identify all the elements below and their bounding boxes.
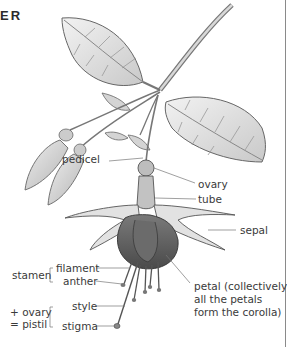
label-pistil-line1: + ovary	[10, 306, 52, 318]
label-pistil-line2: = pistil	[10, 318, 47, 330]
label-petal-line2: all the petals	[194, 293, 262, 305]
pedicel-stalk	[146, 95, 158, 162]
ovary-shape	[138, 160, 154, 176]
leader-petal	[166, 255, 190, 283]
label-sepal: sepal	[240, 224, 268, 236]
label-petal-line1: petal (collectively,	[194, 280, 287, 292]
small-leaf	[105, 132, 128, 140]
label-tube: tube	[198, 193, 222, 205]
upper-leaf	[62, 18, 143, 86]
lower-right-leaf	[165, 97, 265, 162]
label-stamen: stamen	[12, 269, 51, 281]
label-style: style	[72, 300, 97, 312]
leader-anther	[96, 281, 122, 284]
small-leaf	[102, 93, 130, 110]
leader-tube	[155, 198, 196, 199]
stamen-filament	[124, 262, 132, 284]
stigma-shape	[114, 324, 120, 329]
label-filament: filament	[56, 262, 99, 274]
label-anther: anther	[63, 275, 98, 287]
tube-shape	[137, 176, 155, 209]
small-leaf	[128, 135, 150, 150]
label-pedicel: pedicel	[62, 153, 100, 165]
leader-ovary	[154, 168, 195, 183]
leader-pedicel	[109, 158, 143, 161]
label-ovary: ovary	[198, 178, 228, 190]
label-stigma: stigma	[62, 320, 98, 332]
label-petal-line3: form the corolla)	[194, 306, 281, 318]
